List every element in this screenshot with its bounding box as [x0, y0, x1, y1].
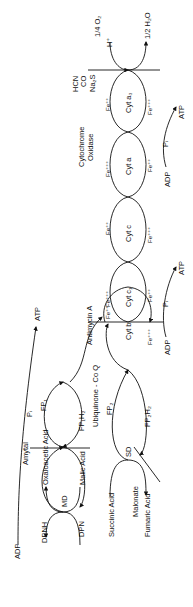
cyt-a-label: Cyt a: [124, 157, 133, 175]
succinate-dehydrogenase-section: Succinic Acid Fumaric Acid Malonate SD: [107, 446, 160, 537]
cyt-a3-cycle: Fe⁺⁺ Cyt a₃ Fe⁺⁺⁺: [105, 70, 153, 132]
atp-label-3: ATP: [177, 105, 186, 119]
fp1-label: FP₁: [39, 398, 48, 411]
phosphorylation-site-3: ADP Pᵢ ATP: [161, 105, 186, 187]
cyt-a3-label: Cyt a₃: [124, 92, 133, 113]
adp-label-3: ADP: [163, 172, 172, 187]
sd-label: SD: [124, 446, 133, 457]
cyt-c-cycle: Fe⁺⁺ Cyt c Fe⁺⁺⁺: [105, 197, 153, 262]
cyt-c-fe2-label: Fe⁺⁺: [105, 222, 111, 235]
cyt-c-label: Cyt c: [124, 225, 133, 242]
phosphorylation-site-1: ADP Pᵢ ATP: [13, 307, 42, 559]
na2s-label: Na₂S: [88, 74, 97, 92]
svg-text:Oxidase: Oxidase: [86, 133, 95, 161]
fp2h2-label: FP₂H₂: [143, 406, 152, 427]
fp2-cycle: FP₂ FP₂H₂: [105, 370, 152, 460]
cyt-c-fe3-label: Fe⁺⁺⁺: [147, 227, 153, 243]
cyt-c1-fe3-label: Fe⁺⁺⁺: [105, 291, 111, 307]
cyt-b-label: Cyt b: [124, 322, 133, 340]
svg-text:Cytochrome: Cytochrome: [77, 127, 86, 167]
adp-label-1: ADP: [13, 544, 22, 559]
cyt-c1-label: Cyt c₁: [124, 287, 133, 307]
dpn-label: DPN: [77, 521, 86, 537]
cyt-a3-fe3-label: Fe⁺⁺⁺: [147, 99, 153, 115]
adp-label-2: ADP: [163, 340, 172, 355]
dpnh-label: DPNH: [40, 522, 49, 543]
cyt-c1-fe2-label: Fe⁺⁺: [147, 289, 153, 302]
pi-label-1: Pᵢ: [25, 411, 34, 417]
succinic-acid-label: Succinic Acid: [107, 493, 116, 537]
fp2-label: FP₂: [105, 402, 114, 415]
fp1h2-label: FP₁H₂: [77, 410, 86, 431]
cyt-a3-fe2-label: Fe⁺⁺: [105, 98, 111, 111]
co-label: CO: [79, 76, 88, 87]
cyt-c1-cycle: Fe⁺⁺⁺ Cyt c₁ Fe⁺⁺: [105, 262, 153, 322]
oxygen-reduction: H⁺ 1/4 O₂ 1/2 H₂O: [93, 12, 152, 70]
cyt-a-cycle: Fe⁺⁺⁺ Cyt a Fe⁺⁺: [105, 132, 153, 197]
antimycin-label: Antimycin A: [85, 306, 94, 345]
o2-label: 1/4 O₂: [93, 16, 102, 37]
phosphorylation-site-2: ADP Pᵢ ATP: [161, 261, 186, 355]
atp-label-2: ATP: [177, 261, 186, 275]
electron-transport-diagram: Malic Acid Oxaloacetic Acid MD DPNH DPN: [0, 0, 193, 607]
cyt-a-fe3-label: Fe⁺⁺⁺: [105, 161, 111, 177]
atp-label-1: ATP: [33, 307, 42, 321]
ubiquinone-label: Ubiquinone - Co Q: [91, 365, 100, 427]
cyt-b-fe3-label: Fe⁺⁺⁺: [147, 329, 153, 345]
pi-label-3: Pᵢ: [161, 141, 170, 147]
malonate-label: Malonate: [131, 486, 140, 517]
cyt-a-fe2-label: Fe⁺⁺: [147, 159, 153, 172]
water-label: 1/2 H₂O: [143, 12, 152, 39]
pi-label-2: Pᵢ: [161, 301, 170, 307]
fumaric-acid-label: Fumaric Acid: [143, 494, 152, 537]
malonate-inhibitor-line: [134, 447, 160, 482]
md-label: MD: [60, 495, 69, 507]
h-plus-label: H⁺: [105, 38, 114, 47]
cytochrome-oxidase-label: Cytochrome Oxidase: [77, 127, 95, 167]
